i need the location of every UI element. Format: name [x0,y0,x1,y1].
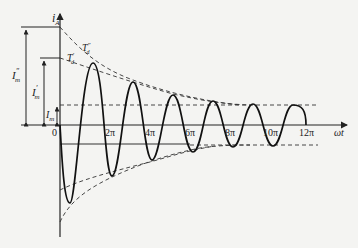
envelope-upper-subtransient [60,27,240,105]
envelope-upper-transient [60,58,250,105]
tick-12pi: 12π [299,127,314,138]
diagram: iA 0 ωt 2π 4π 6π 8π 10π 12π I″m I′m Im T… [0,0,358,248]
current-waveform-diagram: iA 0 ωt 2π 4π 6π 8π 10π 12π I″m I′m Im T… [0,0,358,248]
label-td-transient: T′d [67,51,75,65]
label-im-subtransient: I″m [11,67,20,84]
label-im-steady: Im [45,109,54,123]
tick-2pi: 2π [105,127,115,138]
tick-4pi: 4π [145,127,155,138]
tick-8pi: 8π [225,127,235,138]
tick-10pi: 10π [263,127,278,138]
envelope-lower-transient [60,146,215,190]
origin-label: 0 [52,127,57,138]
label-im-transient: I′m [31,84,39,101]
x-axis-label: ωt [334,127,344,138]
tick-6pi: 6π [185,127,195,138]
y-axis-label: iA [52,11,60,27]
label-td-subtransient: T″d [82,41,91,55]
